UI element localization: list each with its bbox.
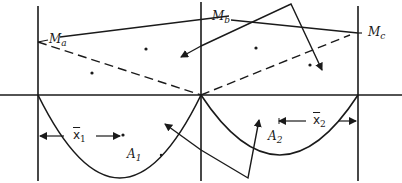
mb-leader-left	[60, 16, 229, 37]
parabola-a2	[201, 95, 358, 155]
label-ma-sub: a	[61, 38, 66, 48]
label-a2-main: A	[268, 129, 277, 143]
label-x1: x1	[73, 129, 86, 141]
moment-area-diagram: Ma Mb Mc A1 A2 x1 x2	[0, 0, 402, 183]
dashed-moment-line-left	[38, 42, 201, 95]
lower-arrow-path	[201, 120, 259, 178]
centroid-dot	[144, 47, 147, 50]
label-mc: Mc	[368, 26, 385, 38]
label-a2-sub: 2	[277, 135, 283, 145]
label-mb: Mb	[212, 10, 230, 22]
centroid-dot	[121, 133, 124, 136]
label-ma-main: M	[49, 32, 61, 46]
label-x2: x2	[313, 114, 326, 126]
centroid-dot	[308, 63, 311, 66]
dashed-moment-line-right	[201, 35, 350, 95]
diagram-canvas	[0, 0, 402, 183]
centroid-dot	[160, 154, 162, 156]
centroid-dot	[90, 71, 93, 74]
centroid-dot	[254, 46, 257, 49]
label-a1-sub: 1	[136, 153, 142, 163]
label-ma: Ma	[49, 33, 67, 45]
label-a1-main: A	[127, 147, 136, 161]
ma-leader-line	[38, 40, 48, 42]
label-mb-main: M	[212, 9, 224, 23]
label-mc-main: M	[368, 25, 380, 39]
label-x2-sub: 2	[320, 119, 326, 129]
mb-leader-right	[231, 20, 358, 33]
label-mc-sub: c	[380, 31, 385, 41]
label-a2: A2	[268, 130, 282, 142]
upper-left-arrow	[181, 46, 201, 57]
label-mb-sub: b	[224, 15, 230, 25]
label-a1: A1	[127, 148, 141, 160]
label-x1-sub: 1	[80, 134, 86, 144]
